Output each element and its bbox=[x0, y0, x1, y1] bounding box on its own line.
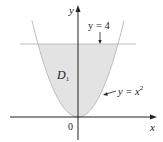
parabola-label-pointer bbox=[106, 91, 116, 94]
region-diagram: y x 0 y = 4 D1 y = x2 bbox=[0, 0, 163, 142]
parabola-equation-label: y = x2 bbox=[117, 84, 144, 97]
y-axis-arrow-icon bbox=[76, 5, 81, 12]
origin-label: 0 bbox=[68, 121, 73, 132]
line-equation-label: y = 4 bbox=[88, 20, 110, 31]
line-label-arrow-icon bbox=[98, 40, 101, 44]
x-axis-label: x bbox=[149, 121, 155, 133]
parabola-label-arrow-icon bbox=[103, 92, 108, 96]
x-axis-arrow-icon bbox=[150, 115, 157, 120]
y-axis-label: y bbox=[68, 4, 74, 16]
